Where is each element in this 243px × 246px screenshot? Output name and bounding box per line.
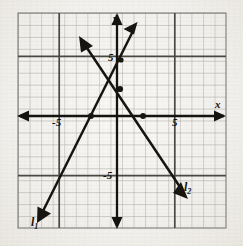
x-tick-label-negative-5: -5 — [52, 117, 61, 128]
graph-figure: y x -5 5 5 -5 l1 l2 — [0, 0, 243, 246]
point-lines-intersection — [117, 86, 123, 92]
x-axis-label: x — [215, 99, 221, 110]
line-label-l1: l1 — [31, 216, 38, 231]
grid-minor — [18, 13, 226, 228]
y-tick-label-positive-5: 5 — [108, 52, 114, 63]
y-axis-label: y — [113, 13, 118, 24]
point-l1-x-intercept — [88, 113, 94, 119]
line-label-l2: l2 — [184, 181, 191, 196]
coordinate-plane-svg — [0, 0, 243, 246]
y-tick-label-negative-5: -5 — [103, 170, 112, 181]
point-l1-upper — [118, 57, 123, 62]
x-tick-label-positive-5: 5 — [172, 117, 178, 128]
point-l2-x-intercept — [140, 113, 146, 119]
line-label-l1-subscript: 1 — [34, 222, 38, 231]
line-label-l2-subscript: 2 — [187, 187, 191, 196]
